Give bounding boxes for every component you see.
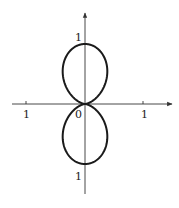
y-tick-label-pos-one: 1 — [75, 32, 82, 43]
origin-label: 0 — [75, 109, 82, 120]
y-tick-label-neg-one: 1 — [75, 171, 82, 182]
polar-plot — [0, 0, 179, 208]
x-tick-label-neg-one: 1 — [23, 109, 30, 120]
x-tick-label-pos-one: 1 — [141, 109, 148, 120]
